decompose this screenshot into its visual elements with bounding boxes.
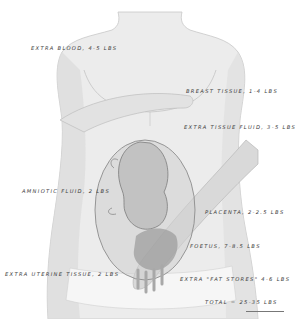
- label-breast-tissue: Breast tissue, 1-4 lbs: [186, 88, 278, 94]
- label-placenta: Placenta, 2-2.5 lbs: [205, 209, 285, 215]
- total-underline: [246, 311, 284, 312]
- label-foetus: Foetus, 7-8.5 lbs: [190, 243, 261, 249]
- label-amniotic-fluid: Amniotic fluid, 2 lbs: [22, 188, 110, 194]
- label-extra-tissue-fluid: Extra tissue fluid, 3-5 lbs: [184, 124, 296, 130]
- label-extra-blood: Extra blood, 4-5 lbs: [31, 45, 117, 51]
- label-extra-uterine-tissue: Extra uterine tissue, 2 lbs: [5, 271, 119, 277]
- label-extra-fat-stores: Extra "fat stores" 4-6 lbs: [180, 276, 290, 282]
- label-total: Total = 25-35 lbs: [205, 299, 278, 305]
